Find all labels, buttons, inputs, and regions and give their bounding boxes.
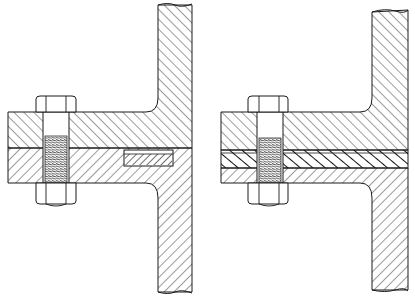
left-bolt-thread bbox=[45, 136, 67, 183]
left-lower-flange bbox=[8, 148, 192, 292]
right-hex-nut bbox=[248, 183, 288, 204]
right-figure bbox=[221, 10, 408, 292]
right-bolt-thread bbox=[259, 138, 281, 183]
right-hex-head bbox=[248, 96, 288, 112]
left-hex-nut bbox=[36, 183, 76, 204]
left-gasket-hatch bbox=[125, 154, 172, 165]
flange-joint-diagram bbox=[0, 0, 415, 299]
left-hex-head bbox=[36, 96, 76, 112]
left-upper-flange bbox=[8, 5, 192, 148]
right-upper-flange bbox=[221, 10, 408, 150]
left-figure bbox=[8, 4, 192, 294]
